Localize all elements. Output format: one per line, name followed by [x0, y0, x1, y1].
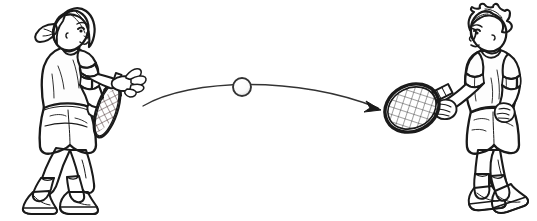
illustration-canvas: Tennis rally between two players A carto…: [0, 0, 537, 221]
boy-free-hand: [495, 103, 515, 122]
tennis-ball: [233, 78, 251, 96]
